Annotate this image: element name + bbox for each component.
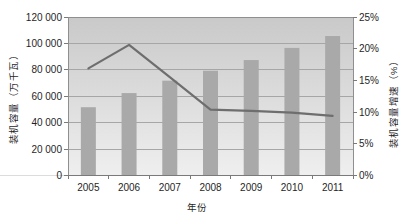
bar-2005 (81, 107, 96, 175)
left-axis-title: 装机容量（万千瓦） (6, 50, 20, 145)
x-tick-label: 2008 (199, 182, 222, 193)
x-axis-title: 年份 (187, 200, 208, 214)
y-right-tick-label: 0% (359, 170, 374, 181)
bar-2009 (244, 60, 259, 175)
y-right-tick-label: 5% (359, 138, 374, 149)
x-tick-label: 2005 (77, 182, 100, 193)
y-right-tick-label: 10% (359, 107, 379, 118)
bar-2008 (203, 71, 218, 176)
x-tick-label: 2011 (322, 182, 344, 193)
y-left-tick-label: 60 000 (31, 91, 62, 102)
y-right-tick-label: 25% (359, 12, 379, 23)
right-axis-title: 装机容量增速（%） (386, 56, 400, 149)
bar-2007 (162, 81, 177, 176)
y-left-tick-label: 80 000 (31, 64, 62, 75)
chart: 120 000100 00080 00060 00040 00020 00002… (0, 0, 402, 219)
bar-2006 (122, 93, 137, 175)
y-left-tick-label: 20 000 (31, 144, 62, 155)
y-left-tick-label: 100 000 (26, 38, 63, 49)
x-tick-label: 2009 (240, 182, 263, 193)
x-tick-label: 2010 (281, 182, 304, 193)
y-right-tick-label: 15% (359, 75, 379, 86)
plot-svg: 120 000100 00080 00060 00040 00020 00002… (0, 0, 402, 219)
y-left-tick-label: 120 000 (26, 12, 63, 23)
y-left-tick-label: 0 (56, 170, 62, 181)
y-right-tick-label: 20% (359, 43, 379, 54)
bar-2011 (325, 36, 340, 175)
x-tick-label: 2007 (159, 182, 182, 193)
x-tick-label: 2006 (118, 182, 141, 193)
y-left-tick-label: 40 000 (31, 117, 62, 128)
